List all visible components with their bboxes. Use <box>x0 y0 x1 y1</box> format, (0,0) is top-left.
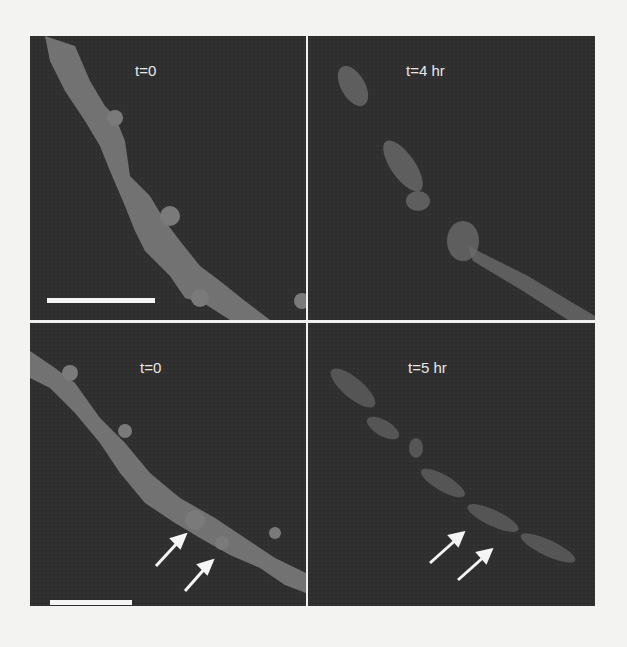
panel-bottom-right: t=5 hr <box>308 323 595 606</box>
scale-bar <box>50 600 132 605</box>
panel-bottom-left: t=0 <box>30 323 306 606</box>
arrow-icon <box>430 533 491 580</box>
scale-bar <box>47 298 155 303</box>
microscopy-figure: t=0 t=4 hr t=0 <box>30 36 595 606</box>
dendrite-image <box>308 323 595 606</box>
panel-top-right: t=4 hr <box>308 36 595 320</box>
dendrite-image <box>30 36 306 320</box>
arrow-icon <box>156 535 212 591</box>
dendrite-image <box>308 36 595 320</box>
time-label: t=5 hr <box>408 359 447 376</box>
time-label: t=4 hr <box>406 62 445 79</box>
time-label: t=0 <box>135 62 156 79</box>
panel-top-left: t=0 <box>30 36 306 320</box>
time-label: t=0 <box>140 359 161 376</box>
dendrite-image <box>30 323 306 606</box>
